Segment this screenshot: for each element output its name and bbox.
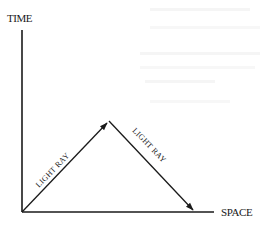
light-ray-1-label: LIGHT RAY xyxy=(34,151,72,189)
light-ray-2 xyxy=(109,121,193,210)
paper-bleed-through xyxy=(140,8,260,103)
time-axis-label: TIME xyxy=(7,12,33,24)
light-ray-2-label: LIGHT RAY xyxy=(131,126,169,164)
space-axis-label: SPACE xyxy=(221,206,253,218)
light-ray-1 xyxy=(22,123,107,212)
spacetime-diagram: TIME SPACE LIGHT RAY LIGHT RAY xyxy=(0,0,270,227)
